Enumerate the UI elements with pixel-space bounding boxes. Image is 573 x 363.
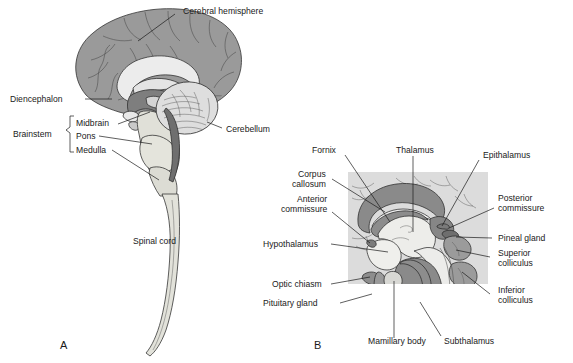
label-hypothalamus: Hypothalamus — [263, 239, 318, 249]
label-pons: Pons — [76, 131, 96, 141]
label-medulla: Medulla — [76, 145, 106, 155]
label-spinal-cord: Spinal cord — [133, 236, 176, 246]
label-cerebellum: Cerebellum — [226, 124, 270, 134]
label-midbrain: Midbrain — [76, 118, 109, 128]
figure-canvas: Cerebral hemisphere Diencephalon Brainst… — [0, 0, 573, 363]
pituitary-gland-shape — [368, 287, 384, 301]
label-superior-colliculus-line1: Superior — [498, 248, 531, 258]
label-pituitary-gland: Pituitary gland — [263, 298, 318, 308]
label-epithalamus: Epithalamus — [483, 150, 530, 160]
label-corpus-callosum-line1: Corpus — [298, 169, 326, 179]
label-posterior-commissure-line2: commissure — [498, 203, 545, 213]
label-posterior-commissure-line1: Posterior — [498, 193, 533, 203]
leader-pituitary-gland — [340, 294, 372, 303]
leader-subthalamus — [420, 302, 441, 336]
label-superior-colliculus-line2: colliculus — [498, 258, 533, 268]
label-optic-chiasm: Optic chiasm — [272, 279, 322, 289]
mamillary-body-shape — [384, 271, 402, 290]
spinal-cord-shape — [146, 194, 180, 356]
label-cerebral-hemisphere: Cerebral hemisphere — [183, 6, 263, 16]
panel-a-illustration: Cerebral hemisphere Diencephalon Brainst… — [10, 6, 270, 356]
label-inferior-colliculus-line2: colliculus — [498, 295, 533, 305]
label-mamillary-body: Mamillary body — [368, 336, 426, 346]
label-brainstem: Brainstem — [13, 129, 52, 139]
brainstem-brace — [66, 116, 74, 152]
optic-chiasm-a — [123, 111, 139, 122]
label-pineal-gland: Pineal gland — [498, 233, 546, 243]
panel-label-a: A — [60, 339, 68, 351]
label-corpus-callosum-line2: callosum — [292, 179, 326, 189]
label-diencephalon: Diencephalon — [10, 94, 63, 104]
panel-b-illustration: Fornix Thalamus Epithalamus Corpus callo… — [263, 145, 546, 351]
label-fornix: Fornix — [312, 145, 337, 155]
label-thalamus: Thalamus — [396, 145, 434, 155]
anatomy-figure: Cerebral hemisphere Diencephalon Brainst… — [0, 0, 573, 363]
label-anterior-commissure-line2: commissure — [281, 204, 328, 214]
label-subthalamus: Subthalamus — [444, 336, 494, 346]
panel-label-b: B — [314, 339, 321, 351]
label-anterior-commissure-line1: Anterior — [297, 194, 327, 204]
label-inferior-colliculus-line1: Inferior — [498, 285, 525, 295]
